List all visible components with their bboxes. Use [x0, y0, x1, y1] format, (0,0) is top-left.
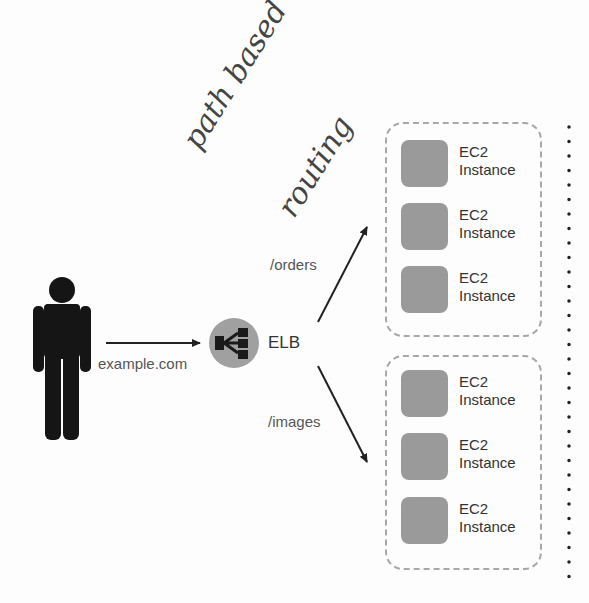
ec2-instance-icon	[401, 433, 448, 480]
ec2-instance-icon	[401, 370, 448, 417]
ec2-instance-label: EC2 Instance	[459, 500, 516, 536]
ec2-instance-icon	[401, 497, 448, 544]
ec2-instance-label: EC2 Instance	[459, 206, 516, 242]
images-route-arrow	[318, 366, 367, 462]
elb-label: ELB	[268, 333, 300, 353]
route-label-images: /images	[268, 413, 321, 430]
ec2-instance-label: EC2 Instance	[459, 143, 516, 179]
ec2-instance-icon	[401, 266, 448, 313]
ec2-instance-label: EC2 Instance	[459, 436, 516, 472]
request-domain-label: example.com	[98, 355, 187, 372]
person-icon	[33, 277, 91, 440]
ec2-instance-icon	[401, 203, 448, 250]
orders-route-arrow	[318, 227, 367, 322]
ec2-instance-label: EC2 Instance	[459, 269, 516, 305]
ec2-instance-label: EC2 Instance	[459, 373, 516, 409]
ec2-instance-icon	[401, 140, 448, 187]
target-group-images: EC2 Instance EC2 Instance EC2 Instance	[385, 355, 542, 570]
target-group-orders: EC2 Instance EC2 Instance EC2 Instance	[385, 122, 542, 337]
route-label-orders: /orders	[270, 256, 317, 273]
elb-icon	[209, 318, 259, 368]
